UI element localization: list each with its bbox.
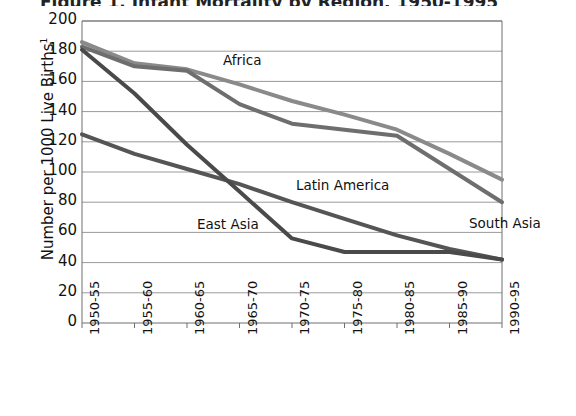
infant-mortality-line-chart: Figure 1. Infant Mortality by Region, 19… bbox=[0, 0, 576, 416]
series-line-south-asia bbox=[82, 47, 502, 203]
x-axis-tick-label: 1970-75 bbox=[297, 281, 312, 335]
series-label-east-asia: East Asia bbox=[197, 216, 259, 232]
series-line-latin-america bbox=[82, 134, 502, 259]
x-axis-tick-label: 1990-95 bbox=[507, 281, 522, 335]
series-label-latin-america: Latin America bbox=[296, 177, 389, 193]
x-axis-tick-label: 1950-55 bbox=[87, 281, 102, 335]
x-axis-tick-label: 1980-85 bbox=[402, 281, 417, 335]
x-axis-tick-label: 1955-60 bbox=[140, 281, 155, 335]
series-paths bbox=[82, 42, 502, 260]
x-axis-tick-label: 1965-70 bbox=[245, 281, 260, 335]
x-axis-tick-label: 1985-90 bbox=[455, 281, 470, 335]
series-label-africa: Africa bbox=[223, 52, 262, 68]
x-axis-tick-label: 1975-80 bbox=[350, 281, 365, 335]
plot-area bbox=[0, 0, 576, 416]
x-axis-tick-label: 1960-65 bbox=[192, 281, 207, 335]
series-label-south-asia: South Asia bbox=[469, 215, 541, 231]
